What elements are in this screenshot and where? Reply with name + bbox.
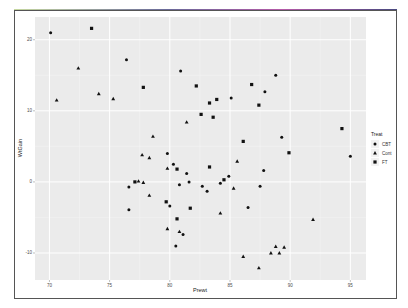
data-point-cbt <box>230 97 233 100</box>
data-point-ft <box>142 86 145 89</box>
data-point-cbt <box>166 152 169 155</box>
legend-label-ft: FT <box>382 160 388 165</box>
y-tick-label: 10 <box>27 108 33 113</box>
legend-circle-icon <box>374 143 377 146</box>
data-point-cbt <box>274 74 277 77</box>
data-point-cbt <box>349 155 352 158</box>
data-point-cbt <box>201 185 204 188</box>
x-tick-label: 95 <box>348 283 354 288</box>
data-point-cbt <box>262 169 265 172</box>
x-tick-label: 70 <box>47 283 53 288</box>
data-point-ft <box>242 140 245 143</box>
data-point-ft <box>257 104 260 107</box>
x-tick-label: 90 <box>288 283 294 288</box>
data-point-cbt <box>185 172 188 175</box>
data-point-ft <box>133 180 136 183</box>
data-point-ft <box>195 84 198 87</box>
legend-label-cbt: CBT <box>382 142 391 147</box>
y-axis-ticks: -1001020 <box>25 37 35 255</box>
y-axis-title: WtGain <box>17 139 23 157</box>
data-point-ft <box>90 27 93 30</box>
data-point-cbt <box>263 90 266 93</box>
data-point-ft <box>175 168 178 171</box>
data-point-cbt <box>247 206 250 209</box>
y-tick-label: -10 <box>25 250 32 255</box>
data-point-cbt <box>127 185 130 188</box>
data-point-cbt <box>127 208 130 211</box>
data-point-cbt <box>188 180 191 183</box>
legend-entries: CBTContFT <box>371 140 392 166</box>
plot-panel <box>35 17 366 280</box>
data-point-cbt <box>182 233 185 236</box>
data-point-ft <box>215 98 218 101</box>
scatter-chart: 707580859095 -1001020 Prewt WtGain Treat… <box>0 0 408 308</box>
data-point-cbt <box>206 190 209 193</box>
data-point-ft <box>200 113 203 116</box>
data-point-cbt <box>168 205 171 208</box>
data-point-cbt <box>227 175 230 178</box>
data-point-cbt <box>219 182 222 185</box>
x-axis-title: Prewt <box>193 287 208 293</box>
data-point-cbt <box>172 163 175 166</box>
legend-square-icon <box>373 160 376 163</box>
data-point-cbt <box>178 183 181 186</box>
data-point-ft <box>189 207 192 210</box>
data-point-cbt <box>125 58 128 61</box>
y-tick-label: 0 <box>29 179 32 184</box>
x-tick-label: 75 <box>107 283 113 288</box>
data-point-ft <box>208 165 211 168</box>
data-point-ft <box>340 127 343 130</box>
data-point-ft <box>250 83 253 86</box>
y-tick-label: 20 <box>27 37 33 42</box>
x-tick-label: 85 <box>227 283 233 288</box>
legend-label-cont: Cont <box>382 151 392 156</box>
data-point-ft <box>287 151 290 154</box>
data-point-ft <box>165 200 168 203</box>
data-point-cbt <box>259 185 262 188</box>
data-point-cbt <box>49 31 52 34</box>
legend: Treat CBTContFT <box>371 131 392 166</box>
legend-title: Treat <box>371 131 383 137</box>
data-point-cbt <box>179 70 182 73</box>
data-point-cbt <box>280 136 283 139</box>
data-point-ft <box>175 217 178 220</box>
data-point-ft <box>208 101 211 104</box>
x-tick-label: 80 <box>167 283 173 288</box>
data-point-cbt <box>174 244 177 247</box>
data-point-ft <box>222 178 225 181</box>
data-point-ft <box>212 116 215 119</box>
